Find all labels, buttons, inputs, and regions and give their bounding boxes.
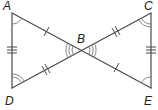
tick-mark-AB xyxy=(44,27,49,36)
label-E: E xyxy=(144,94,153,108)
label-B: B xyxy=(77,32,85,46)
angle-arc-E xyxy=(141,77,151,83)
geometry-diagram: A B C D E xyxy=(0,0,158,110)
angle-arc-C xyxy=(139,18,151,27)
label-C: C xyxy=(144,0,153,13)
angle-arc-A xyxy=(12,18,22,24)
angle-arc-D xyxy=(12,74,24,83)
label-D: D xyxy=(5,94,14,108)
label-A: A xyxy=(2,0,11,13)
